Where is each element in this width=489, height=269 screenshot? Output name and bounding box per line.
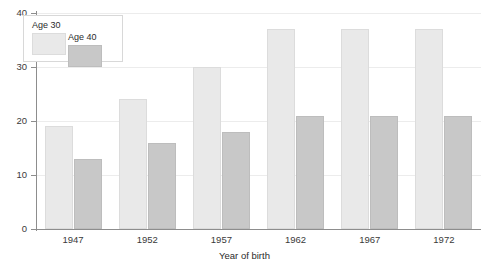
- x-tick-label: 1972: [407, 235, 481, 245]
- bar-1972-age-30: [415, 29, 443, 229]
- bar-group: [119, 13, 176, 229]
- legend-label-age-40: Age 40: [68, 33, 97, 42]
- bar-group: [341, 13, 398, 229]
- bar-1947-age-40: [74, 159, 102, 229]
- x-tick-label: 1947: [36, 235, 110, 245]
- y-tick-label: 0: [3, 224, 27, 234]
- bar-1957-age-30: [193, 67, 221, 229]
- x-axis-title: Year of birth: [0, 251, 489, 261]
- bar-1972-age-40: [444, 116, 472, 229]
- bar-1947-age-30: [45, 126, 73, 229]
- x-axis-line: [36, 229, 481, 230]
- bar-group: [415, 13, 472, 229]
- x-tick-label: 1967: [333, 235, 407, 245]
- bar-1962-age-40: [296, 116, 324, 229]
- bar-chart: 010203040 194719521957196219671972 Year …: [0, 0, 489, 269]
- y-tick-label: 30: [3, 62, 27, 72]
- bar-group: [193, 13, 250, 229]
- legend: Age 30 Age 40: [23, 15, 123, 62]
- bar-1967-age-40: [370, 116, 398, 229]
- bar-1962-age-30: [267, 29, 295, 229]
- bar-1957-age-40: [222, 132, 250, 229]
- y-tick-label: 10: [3, 170, 27, 180]
- x-tick-label: 1957: [184, 235, 258, 245]
- legend-label-age-30: Age 30: [32, 21, 61, 30]
- legend-swatch-age-40: [68, 45, 102, 67]
- bar-group: [267, 13, 324, 229]
- bar-1952-age-30: [119, 99, 147, 229]
- bar-1952-age-40: [148, 143, 176, 229]
- legend-swatch-age-30: [32, 33, 66, 55]
- x-tick-label: 1962: [259, 235, 333, 245]
- x-tick-label: 1952: [110, 235, 184, 245]
- bar-1967-age-30: [341, 29, 369, 229]
- y-tick-label: 20: [3, 116, 27, 126]
